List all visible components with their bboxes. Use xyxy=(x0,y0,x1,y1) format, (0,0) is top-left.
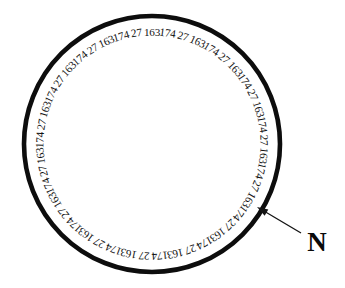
circle-diagram-figure: 1631742716317427163174271631742716317427… xyxy=(0,0,345,288)
ring-label: 174 xyxy=(33,131,46,148)
diagram-canvas: 1631742716317427163174271631742716317427… xyxy=(0,0,345,288)
canvas-background xyxy=(0,0,345,288)
ring-label: 174 xyxy=(159,26,177,40)
ring-label: 27 xyxy=(258,134,270,146)
ring-label: 174 xyxy=(151,250,169,263)
north-label: N xyxy=(307,227,327,257)
ring-label: 27 xyxy=(138,250,150,263)
